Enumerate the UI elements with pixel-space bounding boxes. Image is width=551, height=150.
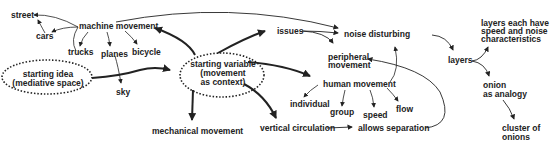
node-machine-movement: machine movement: [79, 22, 158, 31]
node-group: group: [330, 108, 354, 117]
node-cluster-line2: onions: [502, 133, 530, 142]
node-speed: speed: [363, 111, 388, 120]
node-peripheral-line2: movement: [328, 61, 371, 70]
node-starting-idea-line2: (mediative space): [12, 79, 83, 88]
node-human-movement: human movement: [323, 80, 396, 89]
node-street: street: [11, 11, 34, 20]
node-issues: issues: [277, 27, 303, 36]
node-individual: individual: [290, 100, 330, 109]
node-starting-variable-line3: as context): [201, 78, 246, 87]
node-bicycle: bicycle: [132, 48, 161, 57]
node-sky: sky: [116, 88, 130, 97]
node-onion-line2: as analogy: [483, 90, 527, 99]
node-flow: flow: [396, 105, 413, 114]
node-trucks: trucks: [68, 48, 94, 57]
node-layers-each-line3: characteristics: [481, 35, 541, 44]
node-cars: cars: [36, 32, 54, 41]
node-vertical-circulation: vertical circulation: [260, 124, 335, 133]
node-mechanical-movement: mechanical movement: [152, 127, 243, 136]
node-layers: layers: [448, 56, 473, 65]
node-allows-separation: allows separation: [358, 124, 429, 133]
node-noise-disturbing: noise disturbing: [344, 30, 410, 39]
node-planes: planes: [101, 50, 128, 59]
